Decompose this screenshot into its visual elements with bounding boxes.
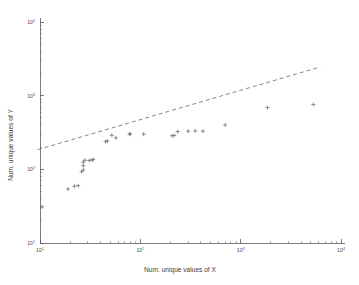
y-tick-label-10^3: 103 xyxy=(27,93,35,99)
x-tick-label-10^3: 103 xyxy=(237,247,245,253)
data-point xyxy=(66,187,70,191)
trend-line-dashed xyxy=(38,67,320,150)
data-point xyxy=(186,129,190,133)
data-point xyxy=(72,184,76,188)
x-tick-label-10^4: 104 xyxy=(337,247,345,253)
data-point xyxy=(105,139,109,143)
axes xyxy=(40,18,345,243)
data-point xyxy=(76,184,80,188)
data-point xyxy=(40,205,44,209)
x-tick-label-10^1: 101 xyxy=(36,247,44,253)
data-point xyxy=(81,164,85,168)
data-point xyxy=(223,123,227,127)
y-tick-label-10^1: 101 xyxy=(27,240,35,246)
data-point xyxy=(114,136,118,140)
axis-tick-labels: 101102103104101102103104 xyxy=(27,19,345,253)
y-axis-title: Num. unique values of Y xyxy=(7,109,15,181)
y-tick-label-10^2: 102 xyxy=(27,166,35,172)
data-point xyxy=(265,106,269,110)
data-point xyxy=(201,129,205,133)
data-markers xyxy=(40,102,315,208)
data-point xyxy=(176,130,180,134)
data-point xyxy=(87,158,91,162)
data-point xyxy=(172,133,176,137)
data-point xyxy=(110,133,114,137)
data-point xyxy=(104,140,108,144)
data-point xyxy=(142,132,146,136)
data-point xyxy=(128,132,132,136)
plot-canvas: 101102103104101102103104 Num. unique val… xyxy=(0,0,359,285)
scatter-plot-figure: 101102103104101102103104 Num. unique val… xyxy=(0,0,359,285)
x-axis-title: Num. unique values of X xyxy=(144,266,216,274)
y-tick-label-10^4: 104 xyxy=(27,19,35,25)
data-point xyxy=(193,129,197,133)
data-point xyxy=(311,102,315,106)
x-tick-label-10^2: 102 xyxy=(136,247,144,253)
trend-line xyxy=(38,67,320,150)
